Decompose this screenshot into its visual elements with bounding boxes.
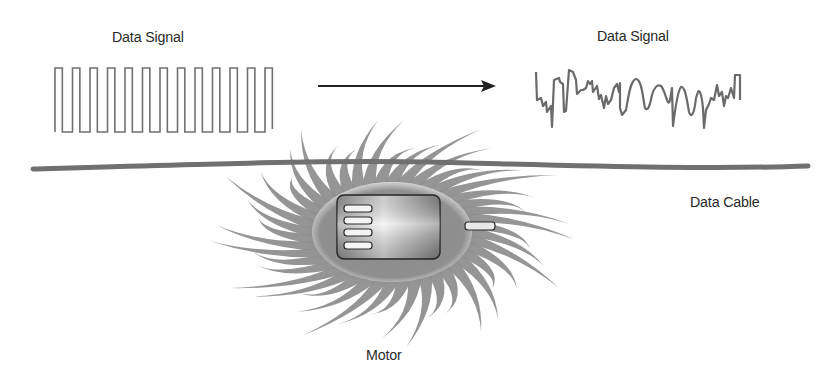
motor-shaft [465, 222, 495, 230]
motor-label: Motor [366, 346, 402, 364]
signal-direction-arrow [318, 80, 496, 92]
output-signal-label: Data Signal [597, 27, 669, 45]
input-signal-label: Data Signal [112, 28, 184, 46]
input-square-wave [55, 68, 272, 132]
data-cable-label: Data Cable [690, 193, 760, 211]
noisy-output-signal [536, 70, 740, 128]
